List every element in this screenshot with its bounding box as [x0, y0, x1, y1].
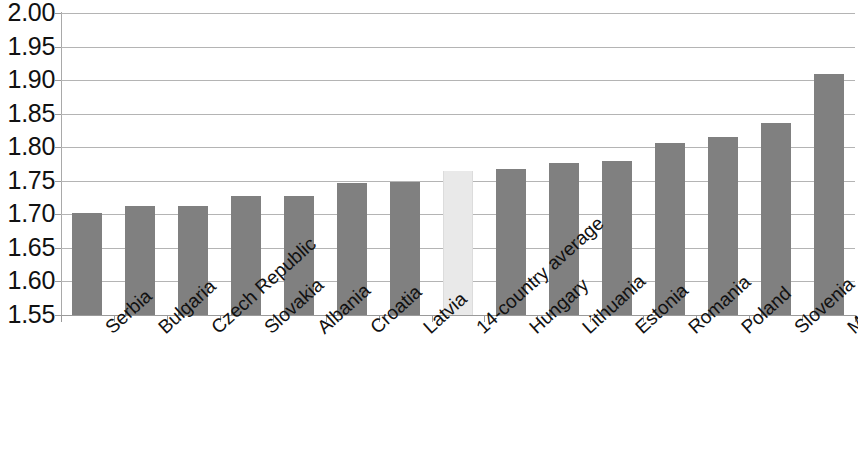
x-axis-category-label: Croatia: [366, 322, 380, 338]
x-axis-category-label: Macedonia: [843, 322, 857, 338]
x-axis-category-label: Albania: [313, 322, 327, 338]
y-axis-tick-label: 1.95: [8, 34, 55, 59]
x-axis-category-label: Serbia: [101, 322, 115, 338]
x-axis-category-label: 14-country average: [472, 322, 486, 338]
bar-chart: 2.001.951.901.851.801.751.701.651.601.55…: [0, 0, 858, 473]
bar-series: [61, 13, 855, 315]
y-axis-tick-label: 1.80: [8, 134, 55, 159]
bar: [72, 213, 102, 315]
x-axis-category-label: Slovakia: [260, 322, 274, 338]
x-axis-category-label: Romania: [684, 322, 698, 338]
x-axis-category-label: Slovenia: [790, 322, 804, 338]
y-axis-tick-label: 1.70: [8, 201, 55, 226]
x-axis-tick: [61, 315, 62, 322]
x-axis-category-label: Poland: [737, 322, 751, 338]
x-axis-category-label: Czech Republic: [207, 322, 221, 338]
x-axis-category-label: Hungary: [525, 322, 539, 338]
y-axis-tick-label: 1.85: [8, 101, 55, 126]
y-axis-tick-label: 1.75: [8, 168, 55, 193]
x-axis-category-label: Latvia: [419, 322, 433, 338]
x-axis-category-label: Lithuania: [578, 322, 592, 338]
y-axis-tick-label: 1.90: [8, 67, 55, 92]
x-axis-category-label: Estonia: [631, 322, 645, 338]
y-axis-tick-label: 1.60: [8, 268, 55, 293]
y-axis-tick-label: 1.65: [8, 235, 55, 260]
x-axis-category-labels: SerbiaBulgariaCzech RepublicSlovakiaAlba…: [0, 322, 858, 473]
plot-area: [61, 13, 855, 315]
y-axis-tick-label: 2.00: [8, 0, 55, 25]
x-axis-category-label: Bulgaria: [154, 322, 168, 338]
